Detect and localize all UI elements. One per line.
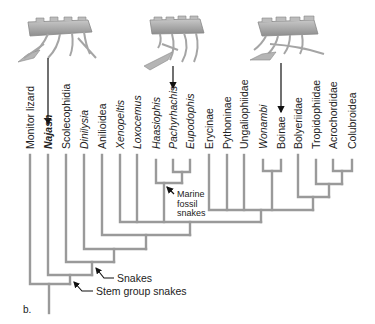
taxon-label-anilioidea: Anilioidea	[96, 103, 108, 149]
stem-group-annotation-arrow	[74, 282, 93, 291]
taxon-label-loxocemus: Loxocemus	[131, 95, 143, 149]
cladogram	[0, 0, 375, 324]
marine-annotation-arrow	[167, 187, 174, 194]
taxon-label-haasiophis: Haasiophis	[150, 97, 162, 149]
taxon-label-pythoninae: Pythoninae	[221, 96, 233, 149]
panel-label: b.	[23, 304, 31, 315]
taxon-label-pachyrhachis: Pachyrhachis	[167, 86, 179, 149]
snakes-label: Snakes	[117, 272, 152, 284]
stem-group-snakes-label: Stem group snakes	[96, 285, 186, 297]
marine-fossil-snakes-label: Marine fossil snakes	[177, 190, 206, 219]
taxon-label-erycinae: Erycinae	[203, 108, 215, 149]
boinae-skeleton	[250, 16, 324, 60]
taxon-label-xenopeltis: Xenopeltis	[114, 100, 126, 149]
taxon-label-acrochordidae: Acrochordidae	[327, 81, 339, 149]
taxon-label-boinae: Boinae	[275, 116, 287, 149]
taxon-label-monitor-lizard: Monitor lizard	[24, 86, 36, 149]
pachyrhachis-skeleton	[144, 16, 204, 70]
taxon-label-colubroidea: Colubroidea	[346, 92, 358, 149]
taxon-label-najash: Najash	[42, 115, 54, 149]
taxon-label-wonambi: Wonambi	[257, 105, 269, 149]
taxon-label-bolyeriidae: Bolyeriidae	[292, 97, 304, 149]
taxon-label-tropidophiidae: Tropidophiidae	[310, 80, 322, 149]
najash-skeleton	[18, 17, 96, 62]
taxon-label-scolecophidia: Scolecophidia	[60, 84, 72, 149]
taxon-label-dinilysia: Dinilysia	[78, 110, 90, 149]
snakes-annotation-arrow	[96, 268, 114, 278]
taxon-label-ungaliophiidae: Ungaliophiidae	[238, 80, 250, 149]
tree-branches	[30, 155, 352, 313]
taxon-label-eupodophis: Eupodophis	[184, 94, 196, 149]
